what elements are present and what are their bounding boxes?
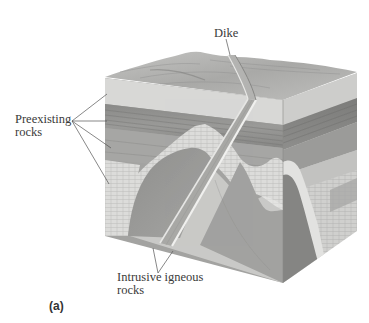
panel-letter: (a) — [49, 299, 64, 313]
label-dike: Dike — [214, 27, 238, 40]
front-face — [100, 70, 290, 290]
dike-leader-line — [226, 39, 230, 55]
preexisting-leader-1 — [72, 94, 107, 121]
label-intrusive-line2: rocks — [117, 284, 203, 297]
label-preexisting-rocks: Preexisting rocks — [15, 113, 71, 139]
label-preexisting-line2: rocks — [15, 126, 71, 139]
label-intrusive-igneous-rocks: Intrusive igneous rocks — [117, 271, 203, 297]
dike-block-diagram: Dike Preexisting rocks Intrusive igneous… — [0, 0, 369, 323]
preexisting-leader-4 — [72, 121, 109, 184]
label-dike-text: Dike — [214, 27, 238, 40]
